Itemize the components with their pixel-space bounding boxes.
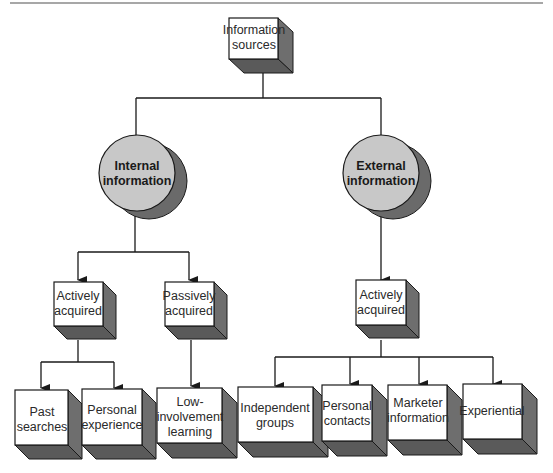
internal-label-line1: Internal [114, 159, 159, 173]
label-line: Low- [176, 395, 203, 409]
label-line: Actively [56, 289, 100, 303]
internal-actively-acquired-node: Actively acquired [54, 282, 116, 339]
label-line: searches [17, 420, 68, 434]
label-line: Personal [87, 403, 136, 417]
external-label-line2: information [347, 174, 416, 188]
root-label-line2: sources [232, 38, 276, 52]
information-sources-diagram: Information sources Internal information… [0, 0, 553, 473]
label-line: involvement [157, 410, 224, 424]
leaf-experiential: Experiential [459, 384, 537, 454]
label-line: acquired [165, 304, 213, 318]
external-actively-acquired-node: Actively acquired [356, 280, 419, 338]
leaf-personal-experience: Personal experience [81, 389, 156, 459]
connectors [41, 70, 493, 388]
label-line: Independent [240, 401, 310, 415]
leaf-personal-contacts: Personal contacts [322, 385, 387, 456]
label-line: experience [81, 418, 142, 432]
label-line: Personal [322, 399, 371, 413]
external-information-node: External information [343, 135, 431, 219]
internal-passively-acquired-node: Passively acquired [163, 282, 227, 339]
label-line: Experiential [459, 404, 524, 418]
root-label-line1: Information [223, 23, 286, 37]
label-line: Passively [163, 289, 217, 303]
label-line: contacts [324, 414, 371, 428]
external-label-line1: External [356, 159, 405, 173]
label-line: information [387, 411, 449, 425]
label-line: learning [168, 425, 213, 439]
leaf-low-involvement-learning: Low- involvement learning [157, 388, 237, 458]
leaf-independent-groups: Independent groups [238, 387, 328, 457]
label-line: Actively [359, 288, 403, 302]
label-line: Marketer [393, 396, 442, 410]
label-line: acquired [54, 304, 102, 318]
label-line: groups [256, 416, 294, 430]
leaf-marketer-information: Marketer information [387, 385, 462, 455]
label-line: acquired [357, 303, 405, 317]
root-node-information-sources: Information sources [223, 18, 293, 73]
label-line: Past [29, 405, 55, 419]
leaf-past-searches: Past searches [15, 390, 82, 459]
internal-information-node: Internal information [99, 135, 187, 219]
internal-label-line2: information [103, 174, 172, 188]
